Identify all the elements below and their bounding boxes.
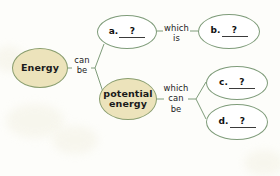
node-energy-label: Energy bbox=[21, 63, 59, 73]
concept-map-diagram: Energy can be a. ? which is b. ? potenti… bbox=[0, 0, 280, 176]
node-d-letter: d. bbox=[218, 117, 228, 127]
node-b-letter: b. bbox=[210, 26, 220, 36]
node-c-label: c. ? bbox=[219, 78, 255, 89]
link-whichcanbe-to-c bbox=[196, 82, 206, 99]
link-canbe-to-a bbox=[95, 44, 104, 68]
node-energy: Energy bbox=[12, 48, 68, 88]
node-a-label: a. ? bbox=[109, 27, 146, 38]
node-b-blank: ? bbox=[222, 26, 248, 37]
node-c-blank: ? bbox=[229, 78, 255, 89]
node-d-label: d. ? bbox=[218, 117, 255, 128]
node-b-label: b. ? bbox=[210, 26, 247, 37]
node-c-letter: c. bbox=[219, 78, 228, 88]
node-b: b. ? bbox=[198, 14, 260, 49]
node-a: a. ? bbox=[97, 15, 157, 49]
node-d-blank: ? bbox=[230, 117, 256, 128]
link-whichcanbe-to-d bbox=[196, 99, 206, 119]
node-a-blank: ? bbox=[119, 27, 145, 38]
connector-which-is: which is bbox=[162, 23, 191, 44]
node-a-letter: a. bbox=[109, 27, 119, 37]
connector-can-be: can be bbox=[70, 55, 94, 76]
node-c: c. ? bbox=[206, 66, 268, 100]
connector-which-can-be: which can be bbox=[162, 83, 190, 114]
node-potential-energy-label: potential energy bbox=[103, 89, 152, 110]
node-d: d. ? bbox=[206, 104, 268, 140]
node-potential-energy: potential energy bbox=[99, 78, 157, 120]
